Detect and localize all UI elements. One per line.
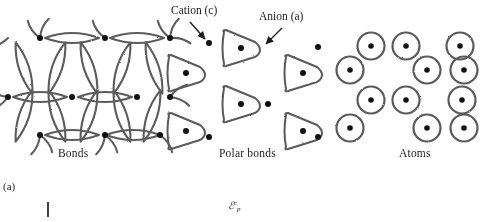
callout-label-anion: Anion (a) (259, 10, 303, 22)
bond-lens-group (11, 33, 167, 143)
panel-atoms (337, 33, 478, 142)
panel-label-polar-bonds: Polar bonds (219, 147, 276, 159)
axis-symbol: ℰcp (228, 199, 241, 213)
panel-polar-bonds (168, 22, 323, 149)
callout-arrows (190, 22, 282, 44)
axis-symbol-subscript: p (237, 205, 241, 213)
subfigure-label: (a) (3, 180, 15, 192)
panel-label-bonds: Bonds (58, 147, 88, 159)
callout-label-cation: Cation (c) (171, 4, 217, 16)
panel-label-atoms: Atoms (399, 147, 431, 159)
figure-container: Bonds Polar bonds Atoms Cation (c) Anion… (0, 0, 495, 222)
panel-bonds (0, 18, 191, 154)
atom-ring-group (337, 33, 478, 142)
anion-triangle-group (168, 30, 323, 149)
diagram-canvas (0, 0, 495, 222)
anion-center-dots (183, 45, 306, 134)
bond-node-group (5, 35, 173, 138)
